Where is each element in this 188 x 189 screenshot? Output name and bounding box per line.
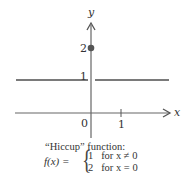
case-1: 1 for x ≠ 0 [88, 150, 138, 162]
x-tick-label-1: 1 [118, 119, 125, 130]
x-axis-label: x [174, 107, 180, 118]
cases: 1 for x ≠ 0 2 for x = 0 [88, 150, 138, 174]
case-2: 2 for x = 0 [88, 162, 138, 174]
origin-label: 0 [81, 118, 88, 129]
point-0-2 [88, 45, 95, 52]
y-tick-label-2: 2 [80, 43, 87, 54]
y-tick-label-1: 1 [80, 71, 87, 82]
y-axis-label: y [88, 7, 94, 18]
function-lhs: f(x) = [44, 155, 69, 167]
